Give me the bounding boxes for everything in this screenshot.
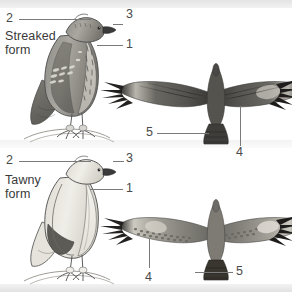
callout-number-1-streaked: 1 — [126, 38, 133, 51]
leader-line-1-tawny — [90, 189, 123, 190]
streaked-flying-bird — [100, 64, 292, 145]
form-label-streaked-line1: Streaked — [5, 30, 56, 43]
leader-line-2-tawny — [19, 161, 91, 162]
callout-number-4-tawny: 4 — [145, 271, 152, 284]
form-label-streaked-line2: form — [5, 44, 30, 57]
callout-number-5-streaked: 5 — [146, 126, 153, 139]
leader-line-2-streaked — [19, 19, 91, 20]
leader-line-3-streaked — [113, 24, 123, 25]
form-label-tawny-line2: form — [5, 188, 30, 201]
panel-tawny-form: 2 3 1 4 5 Tawny form — [0, 148, 292, 288]
panel-streaked-form: 2 3 1 5 Streaked form — [0, 6, 292, 146]
leader-line-4-streaked — [240, 106, 241, 146]
illustration-plate: 2 3 1 5 Streaked form 4 — [0, 0, 292, 292]
form-label-tawny-line1: Tawny — [5, 174, 41, 187]
leader-line-4-tawny — [149, 238, 150, 268]
leader-line-3-tawny — [113, 161, 124, 162]
leader-line-5-tawny — [195, 272, 233, 273]
callout-number-2-tawny: 2 — [6, 154, 13, 167]
leader-line-5-streaked — [157, 133, 209, 134]
callout-number-3-streaked: 3 — [126, 8, 133, 21]
callout-number-1-tawny: 1 — [126, 182, 133, 195]
callout-number-5-tawny: 5 — [236, 265, 243, 278]
callout-number-3-tawny: 3 — [126, 152, 133, 165]
tawny-flying-bird — [100, 200, 292, 281]
callout-number-2-streaked: 2 — [6, 12, 13, 25]
leader-line-1-streaked — [97, 45, 123, 46]
